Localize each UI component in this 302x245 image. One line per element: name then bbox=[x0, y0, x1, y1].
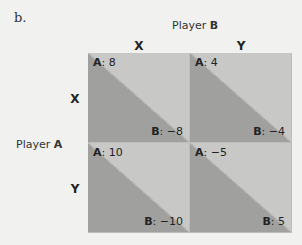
payoff-a: A: 8 bbox=[93, 56, 116, 69]
row-header-y: Y bbox=[68, 182, 82, 196]
column-header-y: Y bbox=[221, 39, 261, 53]
payoff-matrix: A: 8 B: −8 A: 4 B: −4 A: 10 B: −10 A: −5… bbox=[88, 53, 292, 233]
payoff-b: B: −8 bbox=[151, 125, 183, 138]
payoff-a: A: 10 bbox=[93, 146, 123, 159]
figure-label: b. bbox=[14, 10, 26, 25]
payoff-b: B: 5 bbox=[262, 215, 285, 228]
player-b-label: Player B bbox=[172, 19, 218, 32]
column-header-x: X bbox=[119, 39, 159, 53]
payoff-a: A: 4 bbox=[195, 56, 218, 69]
player-a-label: Player A bbox=[16, 138, 62, 151]
payoff-cell-y-x: A: 10 B: −10 bbox=[88, 143, 190, 233]
row-header-x: X bbox=[68, 92, 82, 106]
payoff-a: A: −5 bbox=[195, 146, 227, 159]
payoff-cell-y-y: A: −5 B: 5 bbox=[190, 143, 292, 233]
player-b-prefix: Player bbox=[172, 19, 210, 32]
payoff-cell-x-x: A: 8 B: −8 bbox=[88, 53, 190, 143]
payoff-cell-x-y: A: 4 B: −4 bbox=[190, 53, 292, 143]
player-b-name: B bbox=[210, 19, 218, 32]
payoff-b: B: −10 bbox=[144, 215, 183, 228]
player-a-prefix: Player bbox=[16, 138, 54, 151]
player-a-name: A bbox=[54, 138, 63, 151]
payoff-b: B: −4 bbox=[253, 125, 285, 138]
